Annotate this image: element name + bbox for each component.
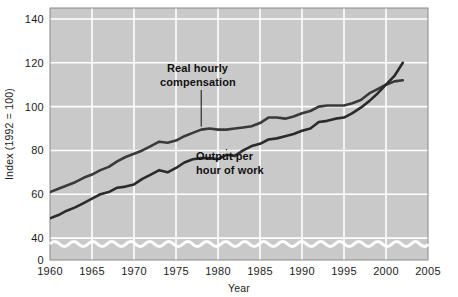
x-tick-label-1995: 1995 [331,265,357,277]
y-axis-title: Index (1992 = 100) [3,88,15,180]
annotation-real-hourly-line2: compensation [160,76,236,88]
x-tick-label-1985: 1985 [247,265,273,277]
y-tick-label-140: 140 [25,13,44,25]
x-tick-label-1990: 1990 [289,265,315,277]
x-tick-label-1965: 1965 [79,265,105,277]
y-tick-label-120: 120 [25,57,44,69]
x-tick-label-2000: 2000 [373,265,399,277]
x-axis-title: Year [228,282,250,294]
plot-background [50,8,428,260]
x-tick-label-1975: 1975 [163,265,189,277]
chart-figure: 0406080100120140 19601965197019751980198… [0,0,458,297]
index-line-chart: 0406080100120140 19601965197019751980198… [0,0,458,297]
y-tick-label-80: 80 [31,144,44,156]
annotation-real-hourly-line1: Real hourly [167,62,229,74]
x-tick-label-1970: 1970 [121,265,147,277]
y-tick-label-60: 60 [31,188,44,200]
x-tick-label-1960: 1960 [37,265,63,277]
y-tick-label-40: 40 [31,232,44,244]
y-axis-tick-labels: 0406080100120140 [25,13,44,266]
annotation-output-line2: hour of work [196,164,265,176]
y-tick-label-100: 100 [25,101,44,113]
x-tick-label-1980: 1980 [205,265,231,277]
x-axis-tick-labels: 1960196519701975198019851990199520002005 [37,265,441,277]
x-tick-label-2005: 2005 [415,265,441,277]
annotation-output-line1: Output per [196,150,254,162]
